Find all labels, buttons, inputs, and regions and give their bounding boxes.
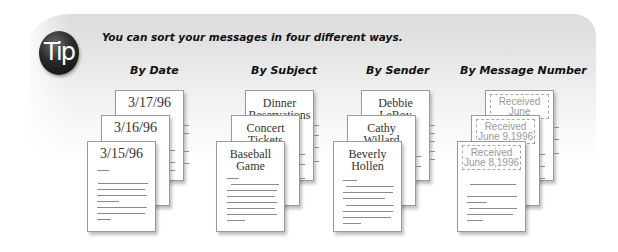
message-doc-subject-front: Baseball Game <box>216 141 285 232</box>
doc-date-label: 3/15/96 <box>88 148 155 160</box>
tip-icon: Tip <box>39 31 79 75</box>
tip-title: You can sort your messages in four diffe… <box>102 31 403 43</box>
message-doc-number-front: Received June 8,1996 <box>457 141 526 232</box>
tip-badge-label: Tip <box>39 35 79 69</box>
message-doc-date-front: 3/15/96 <box>87 141 156 232</box>
heading-by-message-number: By Message Number <box>460 64 587 77</box>
message-doc-sender-front: Beverly Hollen <box>333 141 402 232</box>
doc-date-label: 3/17/96 <box>116 97 183 109</box>
heading-by-date: By Date <box>130 64 179 77</box>
heading-by-subject: By Subject <box>251 64 317 77</box>
received-stamp: Received June 8,1996 <box>462 145 521 170</box>
doc-subject-label: Baseball Game <box>217 148 284 172</box>
doc-sender-label: Beverly Hollen <box>334 148 401 172</box>
doc-date-label: 3/16/96 <box>102 122 169 134</box>
heading-by-sender: By Sender <box>366 64 429 77</box>
